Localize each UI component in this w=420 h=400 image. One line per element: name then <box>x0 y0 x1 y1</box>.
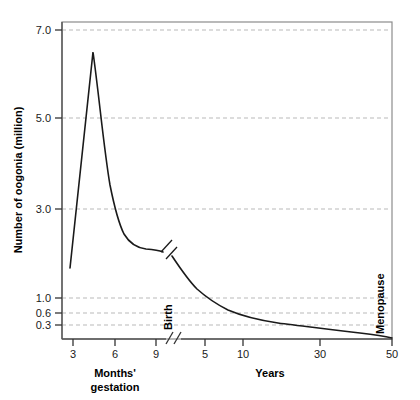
x-tick-label-30y: 30 <box>314 348 326 360</box>
x-tick-label-3: 3 <box>70 348 76 360</box>
x-axis-title-years: Years <box>255 367 284 379</box>
x-tick-label-9: 9 <box>153 348 159 360</box>
x-tick-label-5y: 5 <box>202 348 208 360</box>
y-tick-label-0.3: 0.3 <box>36 319 51 331</box>
annotation-menopause: Menopause <box>374 273 386 334</box>
x-tick-label-6: 6 <box>112 348 118 360</box>
y-tick-label-0.6: 0.6 <box>36 307 51 319</box>
annotation-birth: Birth <box>162 304 174 330</box>
x-axis-title-gestation-line2: gestation <box>91 381 140 393</box>
y-tick-label-5.0: 5.0 <box>36 112 51 124</box>
y-tick-label-1.0: 1.0 <box>36 292 51 304</box>
y-tick-label-3.0: 3.0 <box>36 203 51 215</box>
oogonia-chart: 7.0 5.0 3.0 1.0 0.6 0.3 Number of oogoni… <box>0 0 420 400</box>
chart-background <box>0 0 420 400</box>
x-tick-label-10y: 10 <box>237 348 249 360</box>
y-axis-title: Number of oogonia (million) <box>12 106 24 253</box>
x-axis-title-gestation-line1: Months' <box>94 367 136 379</box>
chart-canvas: 7.0 5.0 3.0 1.0 0.6 0.3 Number of oogoni… <box>0 0 420 400</box>
x-tick-label-50y: 50 <box>386 348 398 360</box>
y-tick-label-7.0: 7.0 <box>36 24 51 36</box>
